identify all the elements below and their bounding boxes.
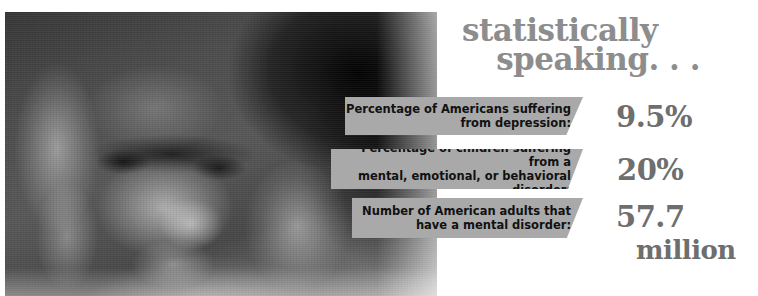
stat-value: 57.7 <box>616 200 685 234</box>
page-title-line-2: speaking. . . <box>462 45 712 74</box>
stat-label-line-1: Number of American adults that <box>362 204 571 218</box>
page-title: statistically speaking. . . <box>462 16 712 73</box>
stat-label-line-1: Percentage of Americans suffering <box>346 102 571 116</box>
stat-value: 20% <box>617 153 683 187</box>
stat-value: 9.5% <box>616 100 692 134</box>
stat-label-band: Percentage of Americans suffering from d… <box>345 97 583 135</box>
stat-label-line-2: from depression: <box>346 116 571 130</box>
stat-label-band: Percentage of children suffering from a … <box>331 149 583 189</box>
statistics-infographic: statistically speaking. . . Percentage o… <box>0 0 758 296</box>
stat-label-line-2: have a mental disorder: <box>362 218 571 232</box>
stat-value-unit: million <box>636 235 736 265</box>
stat-label-band: Number of American adults that have a me… <box>352 198 583 238</box>
